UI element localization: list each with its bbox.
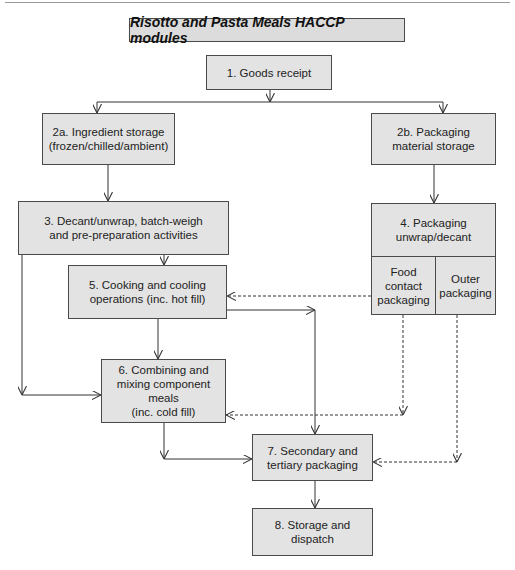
node-decant-unwrap: 3. Decant/unwrap, batch-weigh and pre-pr… [18,201,229,255]
node-cooking-cooling: 5. Cooking and cooling operations (inc. … [68,265,227,319]
node-packaging-unwrap: 4. Packaging unwrap/decant [371,203,496,257]
node-outer-packaging: Outer packaging [435,256,496,315]
node-storage-dispatch: 8. Storage and dispatch [252,508,373,556]
node-goods-receipt: 1. Goods receipt [206,55,332,90]
node-ingredient-storage: 2a. Ingredient storage (frozen/chilled/a… [42,113,175,165]
node-combining-mixing: 6. Combining and mixing component meals … [101,359,226,423]
node-secondary-tertiary-packaging: 7. Secondary and tertiary packaging [252,434,373,481]
node-packaging-material-storage: 2b. Packaging material storage [371,113,496,165]
node-food-contact-packaging: Food contact packaging [371,256,436,315]
